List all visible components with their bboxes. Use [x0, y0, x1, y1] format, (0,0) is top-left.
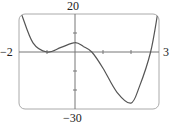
- graph-canvas: [0, 0, 172, 125]
- x-min-label: −2: [0, 46, 13, 58]
- x-max-label: 3: [163, 46, 169, 58]
- function-curve: [22, 14, 158, 103]
- viewing-frame: [19, 14, 159, 109]
- y-min-label: −30: [63, 112, 82, 124]
- y-max-label: 20: [67, 0, 79, 12]
